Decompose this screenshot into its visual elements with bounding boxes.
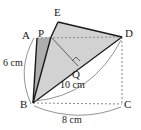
measurement-label-bd: 10 cm xyxy=(60,80,85,90)
measurement-label-bc: 8 cm xyxy=(62,115,82,125)
point-label-d: D xyxy=(125,28,133,39)
point-label-a: A xyxy=(22,30,30,41)
geometry-figure: A B C D E P Q 6 cm 10 cm 8 cm xyxy=(0,0,141,130)
point-label-p: P xyxy=(38,28,44,39)
point-label-b: B xyxy=(20,99,27,110)
point-label-e: E xyxy=(54,7,61,18)
measurement-label-ab: 6 cm xyxy=(3,58,23,68)
point-label-c: C xyxy=(124,99,131,110)
edge-bc-dashed xyxy=(33,103,122,104)
arc-ab xyxy=(24,38,34,104)
